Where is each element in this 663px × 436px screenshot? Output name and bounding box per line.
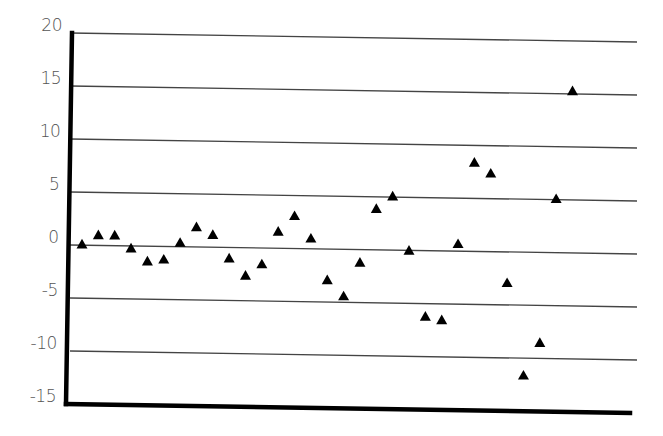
triangle-marker [207, 229, 218, 239]
scatter-chart: 20151050-5-10-15 [0, 0, 663, 436]
triangle-marker [551, 193, 562, 203]
gridlines [70, 33, 637, 360]
triangle-marker [322, 275, 333, 285]
triangle-marker [534, 337, 545, 347]
triangle-marker [371, 203, 382, 213]
triangle-marker [354, 257, 365, 267]
triangle-marker [77, 239, 88, 249]
triangle-marker [256, 259, 267, 269]
triangle-marker [453, 238, 464, 248]
gridline [70, 86, 637, 95]
y-tick-label: -15 [30, 386, 56, 406]
gridline [70, 298, 637, 307]
y-axis-line [66, 33, 72, 404]
triangle-marker [175, 237, 186, 247]
triangle-marker [289, 210, 300, 220]
triangle-marker [158, 254, 169, 264]
y-axis-tick-labels: 20151050-5-10-15 [30, 15, 62, 406]
gridline [70, 351, 637, 360]
gridline [70, 192, 637, 201]
triangle-marker [191, 222, 202, 232]
triangle-marker [273, 226, 284, 236]
gridline [70, 33, 637, 42]
y-tick-label: 15 [41, 68, 62, 88]
triangle-marker [436, 315, 447, 325]
triangle-marker [518, 370, 529, 380]
triangle-marker [469, 157, 480, 167]
triangle-marker [93, 230, 104, 240]
y-tick-label: 20 [41, 15, 62, 35]
gridline [70, 139, 637, 148]
data-points [77, 86, 579, 380]
triangle-marker [387, 191, 398, 201]
x-axis-line [66, 404, 630, 413]
y-tick-label: 0 [48, 227, 58, 247]
y-tick-label: 10 [40, 121, 61, 141]
gridline [70, 245, 637, 254]
triangle-marker [224, 253, 235, 263]
triangle-marker [109, 230, 120, 240]
triangle-marker [126, 243, 137, 253]
y-tick-label: 5 [49, 174, 59, 194]
triangle-marker [485, 168, 496, 178]
y-tick-label: -5 [42, 280, 58, 300]
triangle-marker [420, 311, 431, 321]
triangle-marker [338, 291, 349, 301]
triangle-marker [240, 270, 251, 280]
triangle-marker [142, 256, 153, 266]
y-tick-label: -10 [31, 333, 57, 353]
triangle-marker [567, 86, 578, 96]
triangle-marker [502, 277, 513, 287]
triangle-marker [305, 233, 316, 243]
